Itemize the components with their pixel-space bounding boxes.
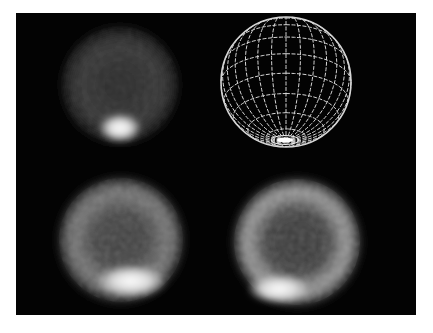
scan-sphere-bottom-right bbox=[229, 173, 365, 313]
scan-sphere-top-left bbox=[56, 23, 186, 153]
figure-panel bbox=[16, 13, 416, 315]
hotspot-bottom-left bbox=[95, 264, 167, 298]
hotspot-top-left bbox=[98, 113, 142, 143]
hotspot-bottom-right bbox=[247, 274, 311, 304]
wireframe-sphere bbox=[221, 17, 351, 147]
pole-highlight bbox=[277, 138, 293, 143]
figure-svg bbox=[16, 13, 416, 315]
scan-sphere-bottom-left bbox=[54, 173, 189, 308]
